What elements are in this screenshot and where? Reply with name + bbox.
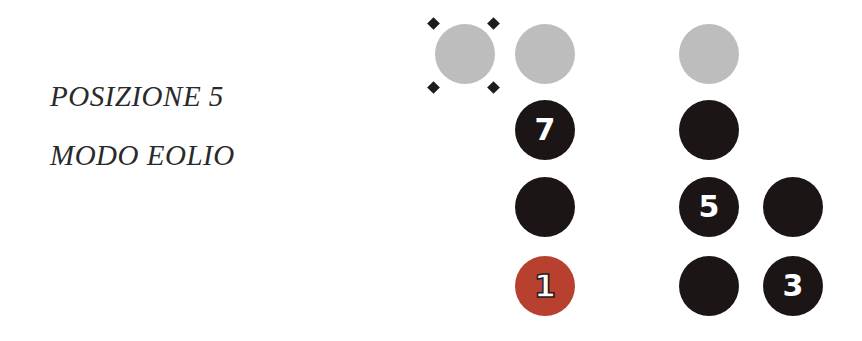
- open-string-dot-col3: [679, 24, 739, 84]
- note-dot: [679, 100, 739, 160]
- selection-handle-top-right-icon: [487, 17, 500, 30]
- mode-title: MODO EOLIO: [50, 139, 235, 172]
- selection-handle-top-left-icon: [427, 17, 440, 30]
- position-title: POSIZIONE 5: [50, 80, 224, 113]
- note-dot: [763, 177, 823, 237]
- open-string-dot-col2: [515, 24, 575, 84]
- dot-label: 7: [535, 115, 556, 145]
- note-dot-degree-5: 5: [679, 177, 739, 237]
- dot-label: 5: [699, 192, 720, 222]
- root-note-dot-degree-1: 1: [515, 256, 575, 316]
- selection-handle-bottom-left-icon: [427, 81, 440, 94]
- open-string-dot-col1[interactable]: [435, 24, 495, 84]
- dot-label: 1: [534, 270, 556, 302]
- note-dot: [515, 177, 575, 237]
- selection-handle-bottom-right-icon: [487, 81, 500, 94]
- note-dot: [679, 256, 739, 316]
- note-dot-degree-7: 7: [515, 100, 575, 160]
- note-dot-degree-3: 3: [763, 256, 823, 316]
- dot-label: 3: [783, 271, 804, 301]
